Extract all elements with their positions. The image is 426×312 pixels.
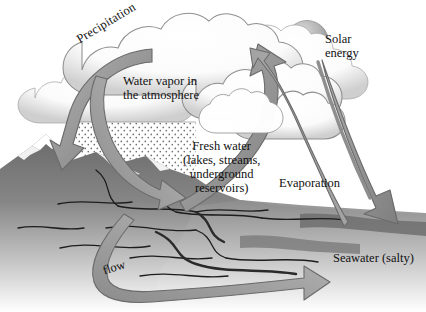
- label-solar-energy: Solar energy: [325, 32, 359, 60]
- label-evaporation: Evaporation: [279, 176, 340, 190]
- water-cycle-diagram: Precipitation Water vapor in the atmosph…: [0, 0, 426, 312]
- label-fresh-water: Fresh water (lakes, streams, underground…: [183, 139, 260, 195]
- label-water-vapor: Water vapor in the atmosphere: [123, 74, 199, 102]
- label-seawater: Seawater (salty): [333, 251, 414, 265]
